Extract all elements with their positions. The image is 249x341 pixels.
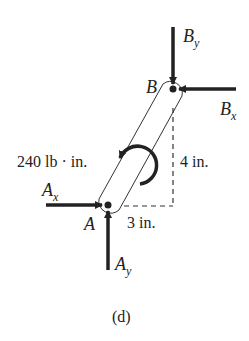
label-bx: Bx [220, 99, 237, 123]
label-ax: Ax [41, 180, 59, 204]
label-ay: Ay [114, 254, 132, 278]
dimension-vertical-label: 4 in. [180, 153, 208, 170]
figure-caption: (d) [112, 308, 131, 326]
label-b: B [146, 77, 157, 97]
moment-arrow [120, 146, 157, 184]
pin-b [170, 86, 177, 93]
moment-label: 240 lb · in. [17, 153, 87, 170]
free-body-diagram: By B Bx 240 lb · in. 4 in. Ax A 3 in. Ay… [0, 0, 249, 341]
label-by: By [183, 26, 200, 50]
dimension-horizontal-label: 3 in. [127, 214, 155, 231]
label-a: A [83, 214, 96, 234]
pin-a [105, 202, 112, 209]
